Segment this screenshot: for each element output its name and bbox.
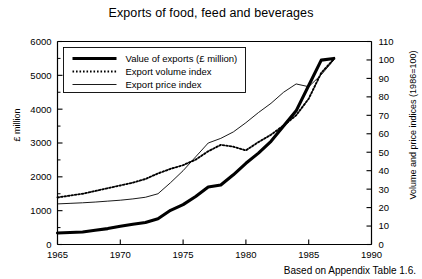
chart-figure: Exports of food, feed and beverages £ mi…	[0, 0, 422, 279]
y-tick-label-right: 60	[379, 128, 390, 139]
y-tick-label-left: 3000	[30, 137, 51, 148]
x-tick-label: 1965	[47, 249, 68, 260]
y-tick-label-left: 5000	[30, 70, 51, 81]
y-tick-label-right: 90	[379, 73, 390, 84]
x-tick-label: 1990	[361, 249, 382, 260]
legend-label: Export price index	[126, 79, 202, 90]
y-tick-label-right: 80	[379, 91, 390, 102]
x-tick-label: 1975	[173, 249, 194, 260]
y-tick-label-right: 40	[379, 165, 390, 176]
y-tick-label-right: 70	[379, 110, 390, 121]
x-tick-label: 1970	[110, 249, 131, 260]
legend-label: Export volume index	[126, 66, 212, 77]
x-tick-label: 1985	[298, 249, 319, 260]
y-tick-label-right: 30	[379, 184, 390, 195]
y-tick-label-right: 10	[379, 220, 390, 231]
y-tick-label-left: 2000	[30, 171, 51, 182]
chart-plot-area: 0100020003000400050006000010203040506070…	[0, 0, 422, 279]
y-tick-label-right: 110	[379, 36, 394, 47]
y-tick-label-right: 50	[379, 147, 390, 158]
y-tick-label-left: 1000	[30, 205, 51, 216]
y-tick-label-left: 6000	[30, 36, 51, 47]
legend-label: Value of exports (£ million)	[126, 53, 238, 64]
y-tick-label-right: 100	[379, 54, 395, 65]
y-tick-label-right: 20	[379, 202, 390, 213]
y-tick-label-left: 4000	[30, 104, 51, 115]
source-note: Based on Appendix Table 1.6.	[284, 265, 416, 276]
x-tick-label: 1980	[235, 249, 256, 260]
